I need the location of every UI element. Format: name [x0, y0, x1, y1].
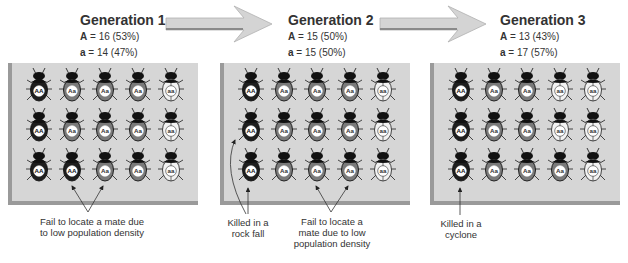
svg-text:Aa: Aa [101, 127, 109, 134]
caption-gen1-fail-to-mate: Fail to locate a mate due to low populat… [32, 216, 152, 238]
generation-2-freq-A: A = 15 (50%) [288, 30, 374, 44]
beetle-aa: aa [578, 147, 608, 185]
caption-line: to low population density [32, 227, 152, 238]
beetle-aa: aa [545, 67, 575, 105]
svg-text:Aa: Aa [313, 167, 321, 174]
beetle-icon: aa [578, 67, 608, 105]
beetle-icon: AA [236, 107, 266, 145]
svg-text:aa: aa [557, 87, 564, 94]
svg-text:aa: aa [380, 167, 387, 174]
svg-text:Aa: Aa [490, 87, 498, 94]
svg-text:AA: AA [457, 167, 466, 174]
svg-text:aa: aa [590, 127, 597, 134]
svg-text:aa: aa [380, 127, 387, 134]
beetle-icon: Aa [57, 67, 87, 105]
beetle-AA: AA [236, 67, 266, 105]
beetle-Aa: Aa [269, 67, 299, 105]
beetle-aa: aa [545, 107, 575, 145]
beetle-icon: AA [446, 147, 476, 185]
svg-text:aa: aa [168, 127, 175, 134]
beetle-icon: AA [24, 107, 54, 145]
svg-text:Aa: Aa [280, 167, 288, 174]
svg-text:aa: aa [590, 167, 597, 174]
generation-1-freq-A: A = 16 (53%) [80, 30, 166, 44]
beetle-AA: AA [24, 147, 54, 185]
svg-text:Aa: Aa [523, 127, 531, 134]
caption-line: Fail to locate a [290, 216, 374, 227]
svg-text:Aa: Aa [523, 87, 531, 94]
beetle-aa: aa [578, 67, 608, 105]
beetle-icon: Aa [512, 107, 542, 145]
beetle-Aa: Aa [512, 67, 542, 105]
svg-text:Aa: Aa [101, 167, 109, 174]
beetle-icon: aa [368, 107, 398, 145]
beetle-Aa: Aa [90, 67, 120, 105]
svg-text:AA: AA [68, 167, 77, 174]
beetle-Aa: Aa [302, 107, 332, 145]
beetle-icon: Aa [512, 147, 542, 185]
beetle-icon: aa [156, 107, 186, 145]
beetle-icon: AA [236, 67, 266, 105]
generation-3-header: Generation 3 A = 13 (43%) a = 17 (57%) [500, 12, 586, 60]
beetle-icon: Aa [335, 107, 365, 145]
beetle-aa: aa [156, 147, 186, 185]
generation-2-title: Generation 2 [288, 12, 374, 28]
svg-text:aa: aa [168, 87, 175, 94]
beetle-Aa: Aa [512, 107, 542, 145]
svg-text:Aa: Aa [490, 127, 498, 134]
svg-text:Aa: Aa [280, 127, 288, 134]
allele-A-value: = 16 (53%) [87, 31, 139, 42]
beetle-icon: Aa [90, 67, 120, 105]
generation-3-freq-a: a = 17 (57%) [500, 46, 586, 60]
beetle-AA: AA [24, 67, 54, 105]
beetle-icon: aa [368, 147, 398, 185]
beetle-icon: Aa [335, 147, 365, 185]
beetle-icon: aa [578, 107, 608, 145]
svg-text:AA: AA [35, 87, 44, 94]
beetle-icon: Aa [269, 147, 299, 185]
generation-1-title: Generation 1 [80, 12, 166, 28]
caption-gen2-fail-to-mate: Fail to locate a mate due to low populat… [290, 216, 374, 249]
generation-3-title: Generation 3 [500, 12, 586, 28]
svg-text:Aa: Aa [313, 87, 321, 94]
beetle-icon: aa [578, 147, 608, 185]
caption-line: Fail to locate a mate due [32, 216, 152, 227]
svg-text:AA: AA [247, 127, 256, 134]
svg-text:AA: AA [457, 127, 466, 134]
svg-text:AA: AA [35, 127, 44, 134]
beetle-aa: aa [368, 147, 398, 185]
beetle-icon: aa [156, 147, 186, 185]
beetle-Aa: Aa [123, 67, 153, 105]
generation-3-freq-A: A = 13 (43%) [500, 30, 586, 44]
beetle-aa: aa [368, 107, 398, 145]
beetle-Aa: Aa [123, 107, 153, 145]
beetle-icon: AA [446, 67, 476, 105]
beetle-AA: AA [236, 107, 266, 145]
beetle-Aa: Aa [335, 67, 365, 105]
beetle-icon: Aa [302, 147, 332, 185]
beetle-icon: Aa [512, 67, 542, 105]
allele-a-value: = 15 (50%) [294, 47, 346, 58]
beetle-icon: Aa [90, 147, 120, 185]
beetle-AA: AA [57, 147, 87, 185]
svg-text:aa: aa [168, 167, 175, 174]
beetle-aa: aa [368, 67, 398, 105]
beetle-icon: Aa [479, 147, 509, 185]
beetle-icon: AA [236, 147, 266, 185]
beetle-icon: AA [24, 147, 54, 185]
beetle-icon: aa [156, 67, 186, 105]
svg-text:Aa: Aa [101, 87, 109, 94]
beetle-icon: Aa [545, 147, 575, 185]
caption-gen3-cyclone: Killed in a cyclone [436, 218, 486, 240]
beetle-Aa: Aa [302, 147, 332, 185]
beetle-icon: Aa [123, 147, 153, 185]
svg-text:Aa: Aa [556, 167, 564, 174]
allele-a-value: = 17 (57%) [506, 47, 558, 58]
svg-text:Aa: Aa [313, 127, 321, 134]
beetle-Aa: Aa [123, 147, 153, 185]
svg-text:AA: AA [457, 87, 466, 94]
svg-text:Aa: Aa [68, 127, 76, 134]
beetle-Aa: Aa [335, 147, 365, 185]
svg-text:Aa: Aa [490, 167, 498, 174]
svg-text:AA: AA [247, 87, 256, 94]
